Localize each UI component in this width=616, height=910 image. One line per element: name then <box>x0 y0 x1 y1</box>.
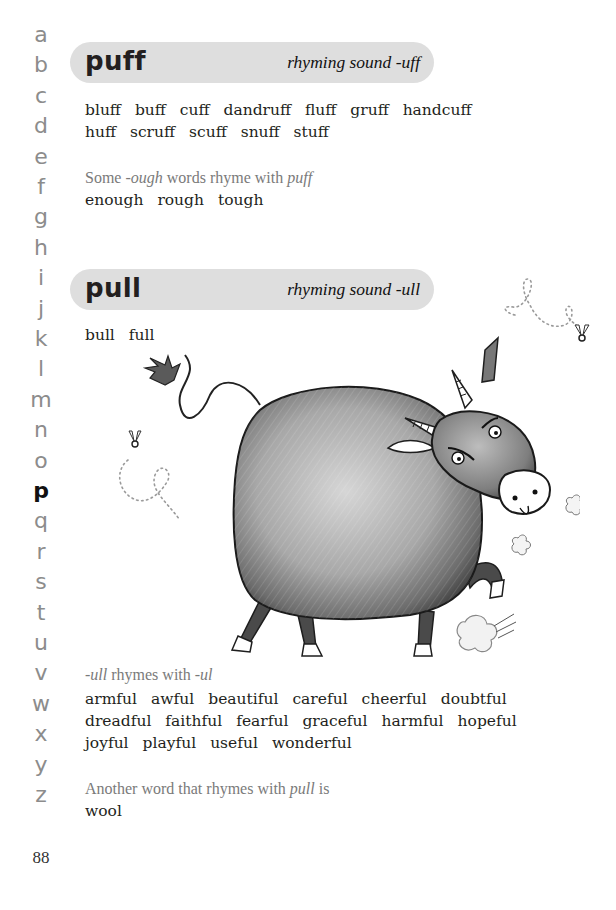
index-letter-i: i <box>26 265 56 291</box>
word: faithful <box>165 710 222 732</box>
word-line: joyfulplayfulusefulwonderful <box>85 732 531 754</box>
word-list-ough: enoughroughtough <box>85 189 277 211</box>
word: gruff <box>350 99 388 121</box>
word: dreadful <box>85 710 151 732</box>
word-list-uff: bluffbuffcuffdandrufffluffgruffhandcuff … <box>85 99 485 143</box>
word: buff <box>135 99 166 121</box>
word: scruff <box>130 121 175 143</box>
word: awful <box>151 688 194 710</box>
word: rough <box>157 189 204 211</box>
word: stuff <box>294 121 329 143</box>
bull-illustration <box>110 330 580 670</box>
word: bluff <box>85 99 121 121</box>
index-letter-o: o <box>26 448 56 474</box>
word: beautiful <box>208 688 278 710</box>
word: joyful <box>85 732 129 754</box>
headword: pull <box>85 273 141 303</box>
section-header-pull: pull rhyming sound -ull <box>70 269 434 310</box>
index-letter-b: b <box>26 52 56 78</box>
index-letter-s: s <box>26 569 56 595</box>
index-letter-q: q <box>26 508 56 534</box>
index-letter-z: z <box>26 782 56 808</box>
word: snuff <box>241 121 280 143</box>
index-letter-r: r <box>26 539 56 565</box>
word-line: dreadfulfaithfulfearfulgracefulharmfulho… <box>85 710 531 732</box>
index-letter-e: e <box>26 144 56 170</box>
index-letter-g: g <box>26 204 56 230</box>
word: armful <box>85 688 137 710</box>
word: graceful <box>302 710 367 732</box>
note-another-word: Another word that rhymes with pull is <box>85 778 329 800</box>
word-list-ul: armfulawfulbeautifulcarefulcheerfuldoubt… <box>85 688 531 754</box>
index-letter-w: w <box>26 691 56 717</box>
index-letter-k: k <box>26 326 56 352</box>
word-line: armfulawfulbeautifulcarefulcheerfuldoubt… <box>85 688 531 710</box>
word: dandruff <box>223 99 290 121</box>
word: enough <box>85 189 143 211</box>
word-line: bluffbuffcuffdandrufffluffgruffhandcuff <box>85 99 485 121</box>
word-list-wool: wool <box>85 800 136 822</box>
index-letter-c: c <box>26 83 56 109</box>
index-letter-a: a <box>26 22 56 48</box>
index-letter-t: t <box>26 600 56 626</box>
tail <box>145 355 260 418</box>
word-line: huffscruffscuffsnuffstuff <box>85 121 485 143</box>
word-line: enoughroughtough <box>85 189 277 211</box>
section-header-puff: puff rhyming sound -uff <box>70 42 434 83</box>
word: tough <box>218 189 263 211</box>
index-letter-v: v <box>26 660 56 686</box>
word: huff <box>85 121 116 143</box>
word: wool <box>85 800 122 822</box>
rhyming-sound-label: rhyming sound -uff <box>287 52 420 73</box>
index-letter-m: m <box>26 387 56 413</box>
word-line: wool <box>85 800 136 822</box>
word: playful <box>143 732 197 754</box>
word: harmful <box>382 710 444 732</box>
word: hopeful <box>458 710 517 732</box>
page-number: 88 <box>26 848 56 868</box>
rhyming-sound-label: rhyming sound -ull <box>287 279 420 300</box>
fly-left-icon <box>120 431 180 520</box>
ear-right <box>482 338 498 382</box>
word: handcuff <box>403 99 472 121</box>
index-letter-p: p <box>26 478 56 504</box>
word: cheerful <box>362 688 427 710</box>
index-letter-l: l <box>26 356 56 382</box>
index-letter-y: y <box>26 752 56 778</box>
word: fearful <box>236 710 288 732</box>
index-letter-d: d <box>26 113 56 139</box>
headword: puff <box>85 46 146 76</box>
word: scuff <box>189 121 227 143</box>
word: careful <box>292 688 347 710</box>
index-letter-j: j <box>26 296 56 322</box>
word: wonderful <box>272 732 352 754</box>
word: fluff <box>305 99 336 121</box>
note-ough: Some -ough words rhyme with puff <box>85 167 312 189</box>
dust-cloud <box>457 614 516 652</box>
word: cuff <box>180 99 210 121</box>
note-ul: -ull rhymes with -ul <box>85 664 213 686</box>
word: useful <box>210 732 258 754</box>
index-letter-h: h <box>26 235 56 261</box>
index-letter-u: u <box>26 630 56 656</box>
word: doubtful <box>441 688 507 710</box>
index-letter-n: n <box>26 417 56 443</box>
index-letter-f: f <box>26 174 56 200</box>
index-letter-x: x <box>26 721 56 747</box>
